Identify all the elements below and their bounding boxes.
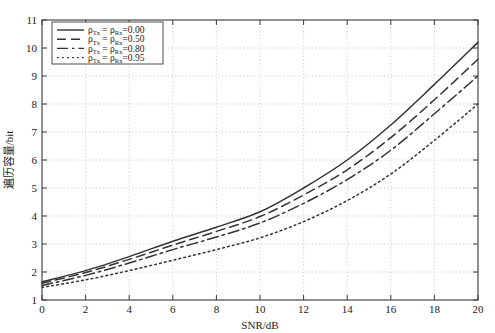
y-axis-tick-label: 5 (32, 182, 38, 194)
x-axis-tick-label: 0 (39, 303, 45, 315)
y-axis-tick-label: 10 (26, 42, 38, 54)
y-axis-tick-label: 8 (32, 98, 38, 110)
y-axis-tick-label: 3 (32, 238, 38, 250)
x-axis-tick-label: 16 (385, 303, 397, 315)
y-axis-tick-label: 9 (32, 70, 38, 82)
x-axis-tick-label: 4 (126, 303, 132, 315)
y-axis-tick-label: 2 (32, 266, 38, 278)
legend-value: 0.95 (128, 53, 145, 63)
y-axis-tick-label: 4 (32, 210, 38, 222)
x-axis-tick-label: 2 (83, 303, 89, 315)
x-axis-tick-label: 8 (214, 303, 220, 315)
chart-figure: 024681012141618201234567891011SNR/dB遍历容量… (0, 0, 495, 333)
y-axis-tick-label: 11 (26, 14, 37, 26)
y-axis-tick-label: 6 (32, 154, 38, 166)
x-axis-tick-label: 10 (255, 303, 267, 315)
ergodic-capacity-line-chart: 024681012141618201234567891011SNR/dB遍历容量… (0, 0, 495, 333)
y-axis-tick-label: 1 (32, 294, 38, 306)
legend-equals-first: = (100, 53, 110, 63)
x-axis-title: SNR/dB (241, 319, 278, 331)
y-axis-tick-label: 7 (32, 126, 38, 138)
x-axis-tick-label: 20 (473, 303, 485, 315)
x-axis-tick-label: 18 (429, 303, 441, 315)
x-axis-tick-label: 6 (170, 303, 176, 315)
x-axis-tick-label: 14 (342, 303, 354, 315)
x-axis-tick-label: 12 (298, 303, 309, 315)
y-axis-title: 遍历容量/bit (2, 131, 15, 190)
